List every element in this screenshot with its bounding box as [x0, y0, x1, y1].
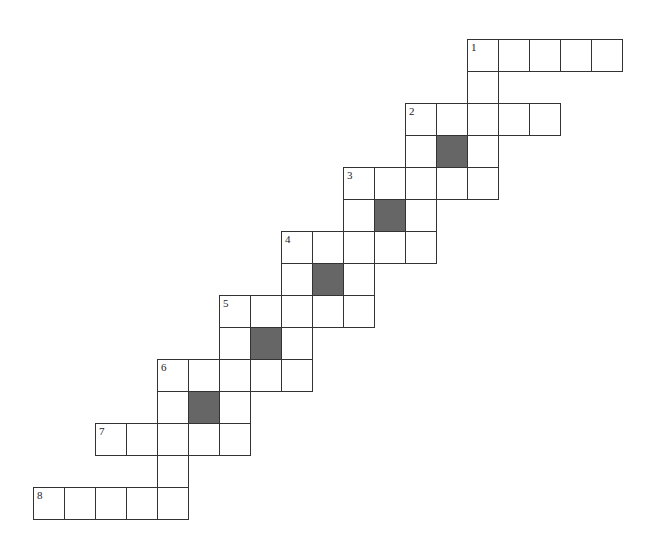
crossword-cell[interactable]: [467, 135, 499, 168]
crossword-cell[interactable]: [312, 295, 344, 328]
crossword-cell[interactable]: [250, 295, 282, 328]
crossword-cell[interactable]: [219, 359, 251, 392]
crossword-cell[interactable]: [467, 167, 499, 200]
crossword-cell[interactable]: [436, 167, 468, 200]
crossword-cell[interactable]: [374, 231, 406, 264]
crossword-cell[interactable]: [157, 455, 189, 488]
crossword-cell[interactable]: [405, 167, 437, 200]
blocked-cell: [436, 135, 468, 168]
crossword-cell[interactable]: 4: [281, 231, 313, 264]
clue-number: 5: [223, 297, 229, 309]
clue-number: 1: [471, 41, 477, 53]
crossword-cell[interactable]: [343, 263, 375, 296]
crossword-cell[interactable]: [95, 487, 127, 520]
crossword-cell[interactable]: [343, 199, 375, 232]
crossword-cell[interactable]: [498, 39, 530, 72]
crossword-cell[interactable]: [157, 487, 189, 520]
crossword-cell[interactable]: [281, 359, 313, 392]
crossword-cell[interactable]: [560, 39, 592, 72]
crossword-cell[interactable]: [188, 359, 220, 392]
clue-number: 2: [409, 105, 415, 117]
crossword-cell[interactable]: 5: [219, 295, 251, 328]
crossword-cell[interactable]: [374, 167, 406, 200]
crossword-cell[interactable]: [64, 487, 96, 520]
clue-number: 7: [99, 425, 105, 437]
blocked-cell: [250, 327, 282, 360]
crossword-cell[interactable]: [157, 423, 189, 456]
crossword-cell[interactable]: [343, 231, 375, 264]
crossword-cell[interactable]: [250, 359, 282, 392]
crossword-cell[interactable]: [467, 71, 499, 104]
crossword-cell[interactable]: [405, 199, 437, 232]
crossword-cell[interactable]: [281, 327, 313, 360]
crossword-cell[interactable]: [312, 231, 344, 264]
clue-number: 6: [161, 361, 167, 373]
blocked-cell: [188, 391, 220, 424]
crossword-cell[interactable]: [467, 103, 499, 136]
clue-number: 3: [347, 169, 353, 181]
crossword-cell[interactable]: [343, 295, 375, 328]
crossword-cell[interactable]: [219, 391, 251, 424]
crossword-cell[interactable]: [281, 263, 313, 296]
crossword-grid: 12345678: [0, 0, 658, 544]
crossword-cell[interactable]: [219, 423, 251, 456]
crossword-cell[interactable]: [281, 295, 313, 328]
clue-number: 8: [37, 489, 43, 501]
crossword-cell[interactable]: [219, 327, 251, 360]
crossword-cell[interactable]: 6: [157, 359, 189, 392]
clue-number: 4: [285, 233, 291, 245]
crossword-cell[interactable]: [529, 103, 561, 136]
blocked-cell: [312, 263, 344, 296]
crossword-cell[interactable]: [157, 391, 189, 424]
crossword-cell[interactable]: 3: [343, 167, 375, 200]
crossword-cell[interactable]: [591, 39, 623, 72]
crossword-cell[interactable]: 1: [467, 39, 499, 72]
crossword-cell[interactable]: [126, 487, 158, 520]
crossword-cell[interactable]: [498, 103, 530, 136]
crossword-cell[interactable]: 7: [95, 423, 127, 456]
crossword-cell[interactable]: [188, 423, 220, 456]
crossword-cell[interactable]: [529, 39, 561, 72]
crossword-cell[interactable]: [405, 135, 437, 168]
blocked-cell: [374, 199, 406, 232]
crossword-cell[interactable]: 8: [33, 487, 65, 520]
crossword-cell[interactable]: [436, 103, 468, 136]
crossword-cell[interactable]: 2: [405, 103, 437, 136]
crossword-cell[interactable]: [126, 423, 158, 456]
crossword-cell[interactable]: [405, 231, 437, 264]
